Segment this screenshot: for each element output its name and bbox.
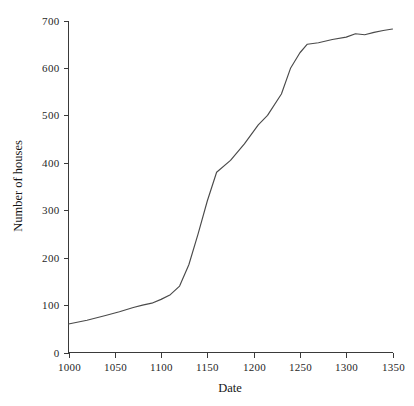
y-tick-label: 700: [42, 15, 60, 27]
x-tick-label: 1150: [196, 361, 219, 373]
x-tick-marks: [70, 353, 394, 358]
x-tick-label: 1200: [243, 361, 266, 373]
x-tick-label: 1050: [104, 361, 127, 373]
x-tick-label: 1000: [58, 361, 81, 373]
x-tick-label: 1250: [289, 361, 312, 373]
y-tick-marks: [64, 22, 69, 354]
y-tick-label: 600: [42, 62, 60, 74]
y-axis-title: Number of houses: [11, 140, 25, 232]
x-tick-label: 1100: [150, 361, 173, 373]
series-group: [69, 29, 393, 324]
x-tick-label: 1300: [335, 361, 358, 373]
x-tick-label: 1350: [382, 361, 405, 373]
data-line-number-of-houses: [69, 29, 393, 324]
x-axis-title: Date: [218, 381, 242, 395]
line-chart-svg: 0100200300400500600700 10001050110011501…: [0, 0, 414, 406]
y-tick-label: 300: [42, 204, 60, 216]
y-tick-label: 400: [42, 157, 60, 169]
y-tick-label: 100: [42, 299, 60, 311]
y-tick-label: 0: [54, 347, 60, 359]
y-tick-labels: 0100200300400500600700: [42, 15, 60, 359]
x-tick-labels: 10001050110011501200125013001350: [58, 361, 405, 373]
x-axis-group: 10001050110011501200125013001350: [58, 353, 405, 373]
y-tick-label: 200: [42, 252, 60, 264]
y-axis-group: 0100200300400500600700: [42, 15, 68, 359]
y-tick-label: 500: [42, 109, 60, 121]
chart-container: 0100200300400500600700 10001050110011501…: [0, 0, 414, 406]
